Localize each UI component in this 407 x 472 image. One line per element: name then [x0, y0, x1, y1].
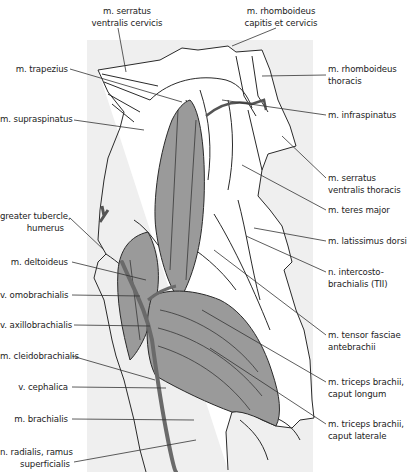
label-line: superficialis	[0, 458, 70, 470]
label-trapezius: m. trapezius	[0, 63, 68, 75]
tubercle-vessel	[100, 206, 108, 222]
label-serratus-ventralis-cervicis: m. serratus ventralis cervicis	[90, 5, 164, 29]
label-tensor-fasciae: m. tensor fasciae antebrachii	[328, 329, 401, 353]
label-line: m. deltoideus	[0, 256, 68, 268]
label-line: thoracis	[328, 75, 397, 87]
label-line: caput laterale	[328, 430, 404, 442]
label-omobrachialis: v. omobrachialis	[0, 289, 68, 301]
label-infraspinatus: m. infraspinatus	[328, 109, 396, 121]
label-rhomboideus-thoracis: m. rhomboideus thoracis	[328, 63, 397, 87]
label-line: m. triceps brachii,	[328, 376, 404, 388]
label-latissimus-dorsi: m. latissimus dorsi	[328, 235, 407, 247]
label-cephalica: v. cephalica	[0, 381, 68, 393]
label-line: brachialis (TII)	[328, 278, 388, 290]
label-line: m. supraspinatus	[0, 113, 72, 125]
label-line: m. serratus	[90, 5, 164, 17]
label-line: ventralis thoracis	[328, 184, 401, 196]
label-line: antebrachii	[328, 341, 401, 353]
label-line: ventralis cervicis	[90, 17, 164, 29]
label-line: v. axillobrachialis	[0, 319, 70, 331]
label-intercostobrachialis: n. intercosto- brachialis (TII)	[328, 266, 388, 290]
label-line: v. cephalica	[0, 381, 68, 393]
label-line: n. radialis, ramus	[0, 446, 70, 458]
label-deltoideus: m. deltoideus	[0, 256, 68, 268]
label-triceps-laterale: m. triceps brachii, caput laterale	[328, 418, 404, 442]
label-line: n. intercosto-	[328, 266, 388, 278]
label-line: m. infraspinatus	[328, 109, 396, 121]
label-line: v. omobrachialis	[0, 289, 68, 301]
label-line: m. rhomboideus	[236, 5, 326, 17]
label-line: m. cleidobrachialis	[0, 350, 70, 362]
label-teres-major: m. teres major	[328, 204, 390, 216]
label-greater-tubercle: greater tubercle, humerus	[0, 210, 64, 234]
label-line: m. latissimus dorsi	[328, 235, 407, 247]
label-triceps-longum: m. triceps brachii, caput longum	[328, 376, 404, 400]
label-line: m. serratus	[328, 172, 401, 184]
label-line: m. trapezius	[0, 63, 68, 75]
label-cleidobrachialis: m. cleidobrachialis	[0, 350, 70, 362]
label-line: m. rhomboideus	[328, 63, 397, 75]
label-line: capitis et cervicis	[236, 17, 326, 29]
label-line: greater tubercle,	[0, 210, 64, 222]
label-line: m. brachialis	[0, 413, 68, 425]
label-line: caput longum	[328, 388, 404, 400]
label-brachialis: m. brachialis	[0, 413, 68, 425]
label-line: m. triceps brachii,	[328, 418, 404, 430]
label-axillobrachialis: v. axillobrachialis	[0, 319, 70, 331]
label-line: m. tensor fasciae	[328, 329, 401, 341]
label-supraspinatus: m. supraspinatus	[0, 113, 72, 125]
label-radialis: n. radialis, ramus superficialis	[0, 446, 70, 470]
label-serratus-thoracis: m. serratus ventralis thoracis	[328, 172, 401, 196]
label-line: m. teres major	[328, 204, 390, 216]
label-rhomboideus-capitis: m. rhomboideus capitis et cervicis	[236, 5, 326, 29]
label-line: humerus	[0, 222, 64, 234]
